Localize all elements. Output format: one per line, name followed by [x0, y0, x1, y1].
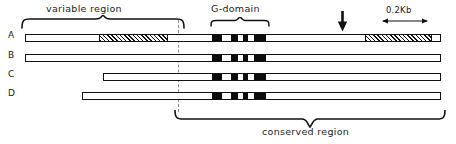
scale-bar-arrow	[381, 17, 429, 25]
row-label-d: D	[8, 88, 15, 98]
variable-region-label: variable region	[46, 3, 122, 14]
conserved-region-label: conserved region	[262, 126, 349, 137]
gene-segment-black-b-0	[212, 55, 222, 61]
gene-segment-black-b-1	[231, 55, 238, 61]
gene-segment-black-d-3	[254, 93, 266, 99]
gene-segment-black-a-2	[231, 35, 238, 41]
gene-segment-black-b-3	[254, 55, 266, 61]
g-domain-label: G-domain	[211, 3, 260, 14]
row-label-b: B	[8, 50, 14, 60]
gene-structure-diagram: variable region G-domain 0.2Kb ABCD	[0, 0, 456, 144]
gene-segment-black-a-3	[243, 35, 248, 41]
g-domain-brace	[210, 17, 270, 27]
gene-segment-black-d-0	[212, 93, 222, 99]
gene-segment-black-c-2	[243, 74, 248, 80]
gene-bar-b	[25, 54, 441, 62]
gene-bar-a	[25, 34, 441, 42]
gene-segment-black-d-2	[243, 93, 248, 99]
gene-bar-d	[82, 92, 441, 100]
gene-segment-black-a-1	[212, 35, 222, 41]
gene-segment-black-c-1	[231, 74, 238, 80]
gene-bar-c	[103, 73, 441, 81]
row-label-c: C	[8, 69, 14, 79]
gene-segment-hatch-a-0	[99, 35, 168, 41]
gene-segment-black-c-0	[212, 74, 222, 80]
gene-segment-black-d-1	[231, 93, 238, 99]
gene-segment-black-c-3	[254, 74, 266, 80]
variable-region-brace	[20, 15, 186, 29]
gene-segment-black-a-4	[254, 35, 266, 41]
row-label-a: A	[8, 30, 14, 40]
scale-bar-label: 0.2Kb	[386, 5, 412, 15]
gene-segment-hatch-a-5	[365, 35, 432, 41]
cleavage-site-arrow	[336, 11, 349, 32]
gene-segment-black-b-2	[243, 55, 248, 61]
